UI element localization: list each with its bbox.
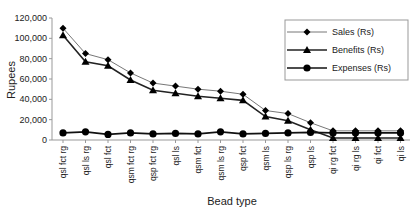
- circle-marker: [352, 129, 359, 136]
- diamond-marker: [195, 86, 202, 93]
- x-tick-label: qsl fct: [103, 145, 113, 168]
- x-tick-label: qsm fct: [193, 145, 203, 173]
- circle-marker: [149, 130, 156, 137]
- triangle-marker: [59, 31, 67, 38]
- circle-marker: [217, 128, 224, 135]
- circle-marker: [303, 64, 310, 71]
- x-tick-label: qsl fct rg: [58, 146, 68, 178]
- legend-label: Benefits (Rs): [332, 45, 384, 55]
- y-tick-label: 0: [42, 135, 47, 145]
- x-axis-title: Bead type: [207, 195, 257, 207]
- x-axis: qsl fct rgqsl ls rgqsl fctqsm fct rgqsp …: [52, 140, 410, 183]
- circle-marker: [127, 129, 134, 136]
- x-tick-label: qsm fct rg: [126, 146, 136, 184]
- circle-marker: [239, 130, 246, 137]
- circle-marker: [307, 129, 314, 136]
- diamond-marker: [150, 80, 157, 87]
- y-tick-label: 120,000: [14, 13, 47, 23]
- x-tick-label: qi fct: [373, 145, 383, 164]
- y-axis-title: Rupees: [5, 61, 17, 99]
- x-tick-label: qsp ls rg: [283, 146, 293, 178]
- circle-marker: [82, 128, 89, 135]
- line-chart: 020,00040,00060,00080,000100,000120,000 …: [0, 0, 416, 210]
- x-tick-label: qi ls: [396, 146, 406, 161]
- circle-marker: [262, 130, 269, 137]
- x-tick-label: qsp fct rg: [148, 146, 158, 181]
- y-tick-label: 60,000: [19, 74, 47, 84]
- x-tick-label: qsl ls rg: [81, 146, 91, 176]
- x-tick-label: qsm ls: [261, 146, 271, 171]
- triangle-marker: [127, 76, 135, 83]
- diamond-marker: [172, 83, 179, 90]
- diamond-marker: [285, 110, 292, 117]
- legend-label: Expenses (Rs): [332, 63, 391, 73]
- x-tick-label: qsp ls: [306, 146, 316, 168]
- series-expenses: [59, 128, 404, 138]
- diamond-marker: [307, 119, 314, 126]
- legend: Sales (Rs)Benefits (Rs)Expenses (Rs): [285, 20, 408, 80]
- circle-marker: [194, 130, 201, 137]
- y-tick-label: 20,000: [19, 115, 47, 125]
- x-tick-label: qsp fct: [238, 145, 248, 171]
- diamond-marker: [217, 88, 224, 95]
- y-axis: 020,00040,00060,00080,000100,000120,000: [14, 13, 52, 145]
- y-tick-label: 40,000: [19, 94, 47, 104]
- circle-marker: [59, 129, 66, 136]
- circle-marker: [172, 130, 179, 137]
- circle-marker: [397, 129, 404, 136]
- x-tick-label: qsl ls: [171, 146, 181, 165]
- diamond-marker: [127, 69, 134, 76]
- y-tick-label: 80,000: [19, 54, 47, 64]
- y-tick-label: 100,000: [14, 33, 47, 43]
- x-tick-label: qi rg ls: [351, 146, 361, 171]
- circle-marker: [374, 129, 381, 136]
- circle-marker: [104, 131, 111, 138]
- circle-marker: [329, 129, 336, 136]
- circle-marker: [284, 129, 291, 136]
- x-tick-label: qsm ls rg: [216, 146, 226, 181]
- legend-label: Sales (Rs): [332, 27, 374, 37]
- x-tick-label: qi rg fct: [328, 145, 338, 174]
